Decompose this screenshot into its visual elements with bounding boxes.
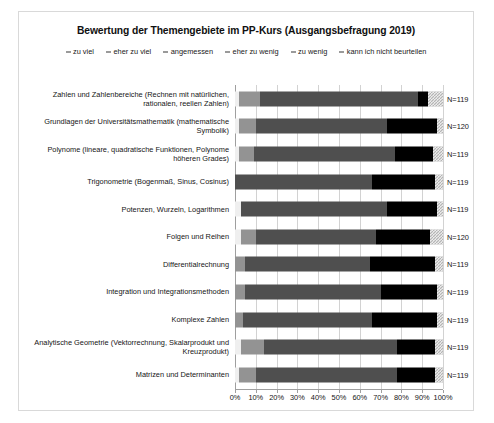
bar-segment[interactable] [241,202,387,217]
sample-size-label: N=119 [447,370,468,379]
bar-segment[interactable] [433,146,443,161]
bar-segment[interactable] [239,367,256,382]
bar-segment[interactable] [243,312,372,327]
x-axis-tick-label: 70% [373,393,388,402]
bar-segment[interactable] [241,340,264,355]
legend-swatch-icon [106,51,111,53]
bar-segment[interactable] [256,229,377,244]
chart-row: Folgen und ReihenN=120 [19,223,473,251]
legend-item-label: angemessen [171,48,213,55]
stacked-bar[interactable] [235,146,443,161]
bar-segment[interactable] [397,340,434,355]
stacked-bar[interactable] [235,257,443,272]
bar-segment[interactable] [239,91,260,106]
sample-size-label: N=119 [447,94,468,103]
bar-segment[interactable] [256,367,397,382]
bar-segment[interactable] [387,119,437,134]
chart-row: Integration und IntegrationsmethodenN=11… [19,278,473,306]
category-label: Folgen und Reihen [19,232,235,241]
bar-segment[interactable] [256,119,387,134]
bar-segment[interactable] [370,257,434,272]
bar-segment[interactable] [241,229,256,244]
bar-segment[interactable] [254,146,395,161]
bar-segment[interactable] [437,284,443,299]
stacked-bar[interactable] [235,119,443,134]
sample-size-label: N=119 [447,315,468,324]
bar-segment[interactable] [418,91,428,106]
bar-zone: N=119 [235,251,443,279]
bar-segment[interactable] [435,340,443,355]
bar-segment[interactable] [235,312,243,327]
bar-segment[interactable] [437,202,443,217]
x-axis-tick-label: 0% [230,393,241,402]
category-label: Potenzen, Wurzeln, Logarithmen [19,205,235,214]
legend-swatch-icon [163,51,168,53]
bar-segment[interactable] [437,312,443,327]
legend-swatch-icon [291,51,296,53]
chart-legend: zu vieleher zu vielangemesseneher zu wen… [19,48,473,55]
stacked-bar[interactable] [235,174,443,189]
bar-segment[interactable] [428,91,443,106]
bar-segment[interactable] [264,340,397,355]
bar-segment[interactable] [245,284,380,299]
bar-segment[interactable] [435,257,443,272]
bar-segment[interactable] [435,174,443,189]
stacked-bar[interactable] [235,312,443,327]
bar-segment[interactable] [372,312,436,327]
chart-row: Polynome (lineare, quadratische Funktion… [19,140,473,168]
legend-item-label: eher zu viel [113,48,151,55]
chart-row: Komplexe ZahlenN=119 [19,306,473,334]
bar-segment[interactable] [376,229,430,244]
bar-segment[interactable] [435,367,443,382]
legend-item[interactable]: eher zu viel [106,48,151,55]
x-axis-tick-label: 80% [394,393,409,402]
legend-item[interactable]: zu viel [66,48,94,55]
bar-segment[interactable] [235,284,245,299]
legend-item[interactable]: angemessen [163,48,213,55]
chart-title: Bewertung der Themengebiete im PP-Kurs (… [19,25,473,36]
stacked-bar[interactable] [235,367,443,382]
legend-item[interactable]: eher zu wenig [225,48,279,55]
bar-segment[interactable] [395,146,432,161]
bar-segment[interactable] [397,367,434,382]
x-axis-tick-label: 90% [415,393,430,402]
bar-segment[interactable] [372,174,434,189]
chart-row: DifferentialrechnungN=119 [19,251,473,279]
legend-item-label: zu viel [73,48,94,55]
bar-segment[interactable] [260,91,418,106]
stacked-bar[interactable] [235,229,443,244]
category-label: Trigonometrie (Bogenmaß, Sinus, Cosinus) [19,177,235,186]
legend-item-label: eher zu wenig [233,48,279,55]
chart-row: Matrizen und DeterminantenN=119 [19,361,473,389]
bar-segment[interactable] [437,119,443,134]
plot-area: Zahlen und Zahlenbereiche (Rechnen mit n… [19,80,473,410]
x-axis-tick-labels: 0%10%20%30%40%50%60%70%80%90%100% [235,393,443,407]
bar-segment[interactable] [245,257,370,272]
stacked-bar[interactable] [235,91,443,106]
category-label: Grundlagen der Universitätsmathematik (m… [19,117,235,135]
bar-segment[interactable] [235,174,372,189]
legend-item[interactable]: kann ich nicht beurteilen [339,48,426,55]
legend-item-label: kann ich nicht beurteilen [347,48,427,55]
bar-rows: Zahlen und Zahlenbereiche (Rechnen mit n… [19,85,473,389]
bar-segment[interactable] [387,202,437,217]
sample-size-label: N=119 [447,205,468,214]
bar-segment[interactable] [239,119,256,134]
stacked-bar[interactable] [235,340,443,355]
sample-size-label: N=120 [447,122,469,131]
x-axis-tick-label: 50% [332,393,347,402]
category-label: Komplexe Zahlen [19,315,235,324]
bar-segment[interactable] [381,284,437,299]
x-axis-tick-label: 60% [352,393,367,402]
bar-segment[interactable] [430,229,442,244]
legend-item[interactable]: zu wenig [291,48,328,55]
bar-segment[interactable] [235,257,245,272]
chart-row: Zahlen und Zahlenbereiche (Rechnen mit n… [19,85,473,113]
bar-segment[interactable] [239,146,254,161]
stacked-bar[interactable] [235,284,443,299]
x-axis-tick-label: 40% [311,393,326,402]
sample-size-label: N=119 [447,260,468,269]
sample-size-label: N=119 [447,149,468,158]
x-axis-tick-label: 20% [269,393,284,402]
stacked-bar[interactable] [235,202,443,217]
